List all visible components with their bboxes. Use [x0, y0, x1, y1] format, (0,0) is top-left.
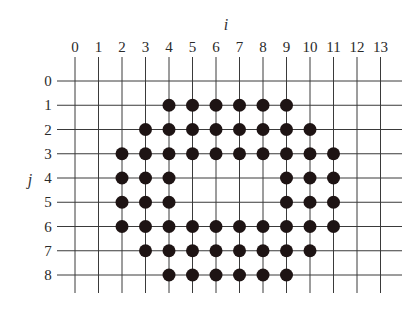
grid-point-dot — [257, 123, 270, 136]
grid-point-dot — [327, 147, 340, 160]
grid-point-dot — [186, 147, 199, 160]
i-tick-label: 3 — [142, 39, 150, 55]
grid-point-dot — [233, 269, 246, 282]
grid-point-dot — [139, 123, 152, 136]
j-tick-label: 0 — [44, 73, 52, 89]
grid-point-dot — [163, 172, 176, 185]
grid-point-dot — [186, 244, 199, 257]
grid-point-dot — [210, 220, 223, 233]
grid-point-dot — [304, 220, 317, 233]
grid-point-dot — [186, 99, 199, 112]
grid-point-dot — [257, 220, 270, 233]
grid-points — [116, 99, 341, 282]
i-tick-label: 10 — [303, 39, 318, 55]
i-tick-label: 0 — [71, 39, 79, 55]
grid-point-dot — [304, 196, 317, 209]
grid-point-dot — [186, 123, 199, 136]
lattice-grid-diagram: 012345678910111213 012345678 i j — [0, 0, 420, 323]
grid-point-dot — [186, 220, 199, 233]
grid-point-dot — [116, 147, 129, 160]
horizontal-grid-lines — [57, 81, 402, 275]
grid-point-dot — [139, 244, 152, 257]
grid-point-dot — [233, 220, 246, 233]
grid-point-dot — [304, 147, 317, 160]
j-tick-label: 1 — [44, 97, 52, 113]
grid-point-dot — [257, 244, 270, 257]
j-tick-label: 2 — [44, 122, 52, 138]
j-tick-label: 6 — [44, 219, 52, 235]
grid-point-dot — [139, 147, 152, 160]
j-axis-label: j — [26, 171, 33, 189]
grid-point-dot — [139, 196, 152, 209]
i-tick-label: 2 — [118, 39, 126, 55]
grid-point-dot — [257, 269, 270, 282]
grid-point-dot — [280, 244, 293, 257]
grid-point-dot — [116, 172, 129, 185]
grid-point-dot — [210, 123, 223, 136]
i-tick-label: 11 — [326, 39, 340, 55]
grid-point-dot — [257, 99, 270, 112]
grid-point-dot — [210, 147, 223, 160]
grid-point-dot — [280, 123, 293, 136]
j-tick-label: 7 — [44, 243, 52, 259]
j-tick-label: 4 — [44, 170, 52, 186]
grid-point-dot — [280, 99, 293, 112]
j-tick-label: 8 — [44, 267, 52, 283]
grid-point-dot — [163, 196, 176, 209]
grid-point-dot — [280, 220, 293, 233]
grid-point-dot — [163, 220, 176, 233]
grid-point-dot — [233, 123, 246, 136]
i-tick-label: 5 — [189, 39, 197, 55]
i-tick-label: 8 — [259, 39, 267, 55]
i-tick-label: 7 — [236, 39, 244, 55]
i-tick-label: 1 — [95, 39, 103, 55]
i-tick-label: 6 — [212, 39, 220, 55]
i-tick-label: 12 — [350, 39, 365, 55]
i-axis-tick-labels: 012345678910111213 — [71, 39, 388, 55]
i-tick-label: 4 — [165, 39, 173, 55]
grid-point-dot — [116, 220, 129, 233]
grid-point-dot — [233, 147, 246, 160]
grid-point-dot — [233, 244, 246, 257]
grid-point-dot — [327, 196, 340, 209]
grid-point-dot — [280, 147, 293, 160]
grid-point-dot — [304, 244, 317, 257]
grid-point-dot — [163, 147, 176, 160]
grid-point-dot — [304, 123, 317, 136]
grid-point-dot — [233, 99, 246, 112]
j-axis-tick-labels: 012345678 — [44, 73, 52, 283]
grid-point-dot — [280, 269, 293, 282]
grid-point-dot — [210, 269, 223, 282]
j-tick-label: 3 — [44, 146, 52, 162]
grid-point-dot — [163, 99, 176, 112]
grid-point-dot — [186, 269, 199, 282]
grid-point-dot — [163, 269, 176, 282]
grid-point-dot — [210, 99, 223, 112]
i-tick-label: 9 — [283, 39, 291, 55]
grid-point-dot — [116, 196, 129, 209]
i-axis-label: i — [224, 16, 228, 33]
i-tick-label: 13 — [373, 39, 388, 55]
grid-point-dot — [210, 244, 223, 257]
grid-point-dot — [257, 147, 270, 160]
grid-point-dot — [139, 220, 152, 233]
grid-point-dot — [327, 172, 340, 185]
grid-point-dot — [327, 220, 340, 233]
j-tick-label: 5 — [44, 194, 52, 210]
grid-point-dot — [163, 244, 176, 257]
grid-point-dot — [304, 172, 317, 185]
grid-point-dot — [280, 196, 293, 209]
grid-point-dot — [139, 172, 152, 185]
grid-point-dot — [280, 172, 293, 185]
grid-point-dot — [163, 123, 176, 136]
